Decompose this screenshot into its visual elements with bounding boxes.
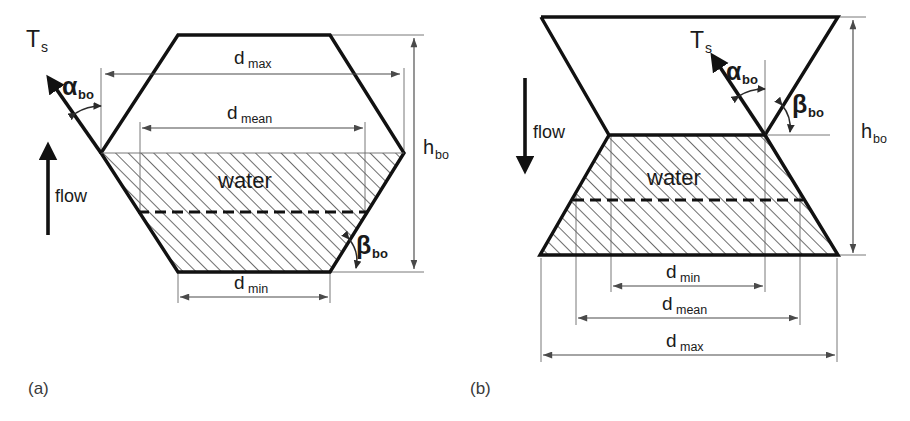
panel-a-dmean-sub: mean — [241, 112, 272, 126]
panel-b-dmax-label: d — [666, 330, 677, 351]
panel-a-dmin-label: d — [234, 272, 245, 293]
panel-b-hbo-sub: bo — [873, 132, 887, 146]
panel-b-flow-label: flow — [533, 122, 566, 142]
panel-b-water-label: water — [646, 165, 701, 190]
panel-b-alpha-arc — [739, 89, 765, 96]
panel-b-dmean-sub: mean — [676, 303, 707, 317]
panel-a-ts-label: T — [26, 26, 40, 52]
panel-b-caption: (b) — [470, 379, 491, 398]
panel-a-dmax-sub: max — [248, 57, 272, 71]
panel-b-dmin-label: d — [666, 261, 677, 282]
panel-a-dmean-label: d — [227, 102, 238, 123]
panel-a-dmin-sub: min — [248, 282, 268, 296]
panel-a-ts-sub: s — [41, 39, 48, 55]
panel-a: d max d mean d min h bo T s α bo β — [26, 26, 449, 398]
panel-a-dmax-label: d — [234, 47, 245, 68]
panel-b-dmin-sub: min — [680, 271, 700, 285]
panel-a-beta-label: β — [356, 231, 371, 259]
panel-a-beta-sub: bo — [372, 246, 388, 261]
panel-a-hbo-sub: bo — [435, 148, 449, 162]
panel-b-alpha-sub: bo — [742, 72, 758, 87]
panel-a-water-label: water — [217, 168, 272, 193]
panel-a-alpha-arc — [76, 106, 101, 113]
panel-b-dmax-sub: max — [680, 340, 704, 354]
panel-b-ts-sub: s — [705, 40, 712, 56]
panel-b: d min d mean d max h bo T s α bo — [470, 17, 887, 398]
panel-a-flow-label: flow — [55, 186, 88, 206]
panel-b-dmean-label: d — [662, 293, 673, 314]
panel-b-hbo-label: h — [861, 120, 872, 142]
panel-a-hbo-label: h — [423, 136, 434, 158]
panel-a-caption: (a) — [28, 379, 49, 398]
panel-b-water-region — [540, 135, 838, 255]
figure-root: d max d mean d min h bo T s α bo β — [0, 0, 910, 421]
panel-a-alpha-label: α — [62, 72, 78, 100]
panel-b-beta-arc — [782, 105, 790, 132]
panel-b-ts-label: T — [690, 27, 704, 53]
panel-b-beta-sub: bo — [808, 105, 824, 120]
diagram-canvas: d max d mean d min h bo T s α bo β — [0, 0, 910, 421]
panel-a-alpha-sub: bo — [78, 87, 94, 102]
panel-b-beta-label: β — [792, 90, 807, 118]
panel-b-alpha-label: α — [726, 57, 742, 85]
